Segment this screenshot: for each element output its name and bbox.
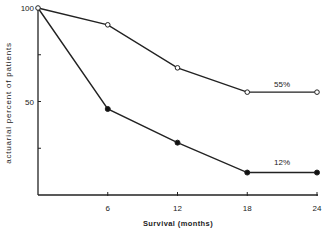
open-circle-marker (105, 23, 110, 28)
y-axis-title: actuarial percent of patients (4, 42, 13, 163)
filled-circle-marker (105, 106, 110, 111)
x-axis-title: Survival (months) (143, 219, 213, 228)
x-tick-label: 6 (106, 204, 111, 213)
series-line (38, 8, 317, 173)
filled-circle-marker (315, 170, 320, 175)
open-circle-marker (175, 66, 180, 71)
y-tick-label: 100 (21, 4, 35, 13)
data-series (36, 6, 320, 175)
value-annotation: 55% (274, 80, 290, 89)
x-tick-label: 24 (313, 204, 322, 213)
filled-circle-marker (245, 170, 250, 175)
open-circle-marker (315, 90, 320, 95)
tick-labels: 612182410050 (21, 4, 322, 213)
open-circle-marker (36, 6, 41, 11)
filled-circle-marker (175, 140, 180, 145)
axis-ticks (38, 55, 317, 196)
x-tick-label: 12 (173, 204, 182, 213)
x-tick-label: 18 (243, 204, 252, 213)
survival-chart: 612182410050 Survival (months) actuarial… (0, 0, 326, 234)
open-circle-marker (245, 90, 250, 95)
value-annotation: 12% (274, 158, 290, 167)
y-tick-label: 50 (25, 98, 34, 107)
